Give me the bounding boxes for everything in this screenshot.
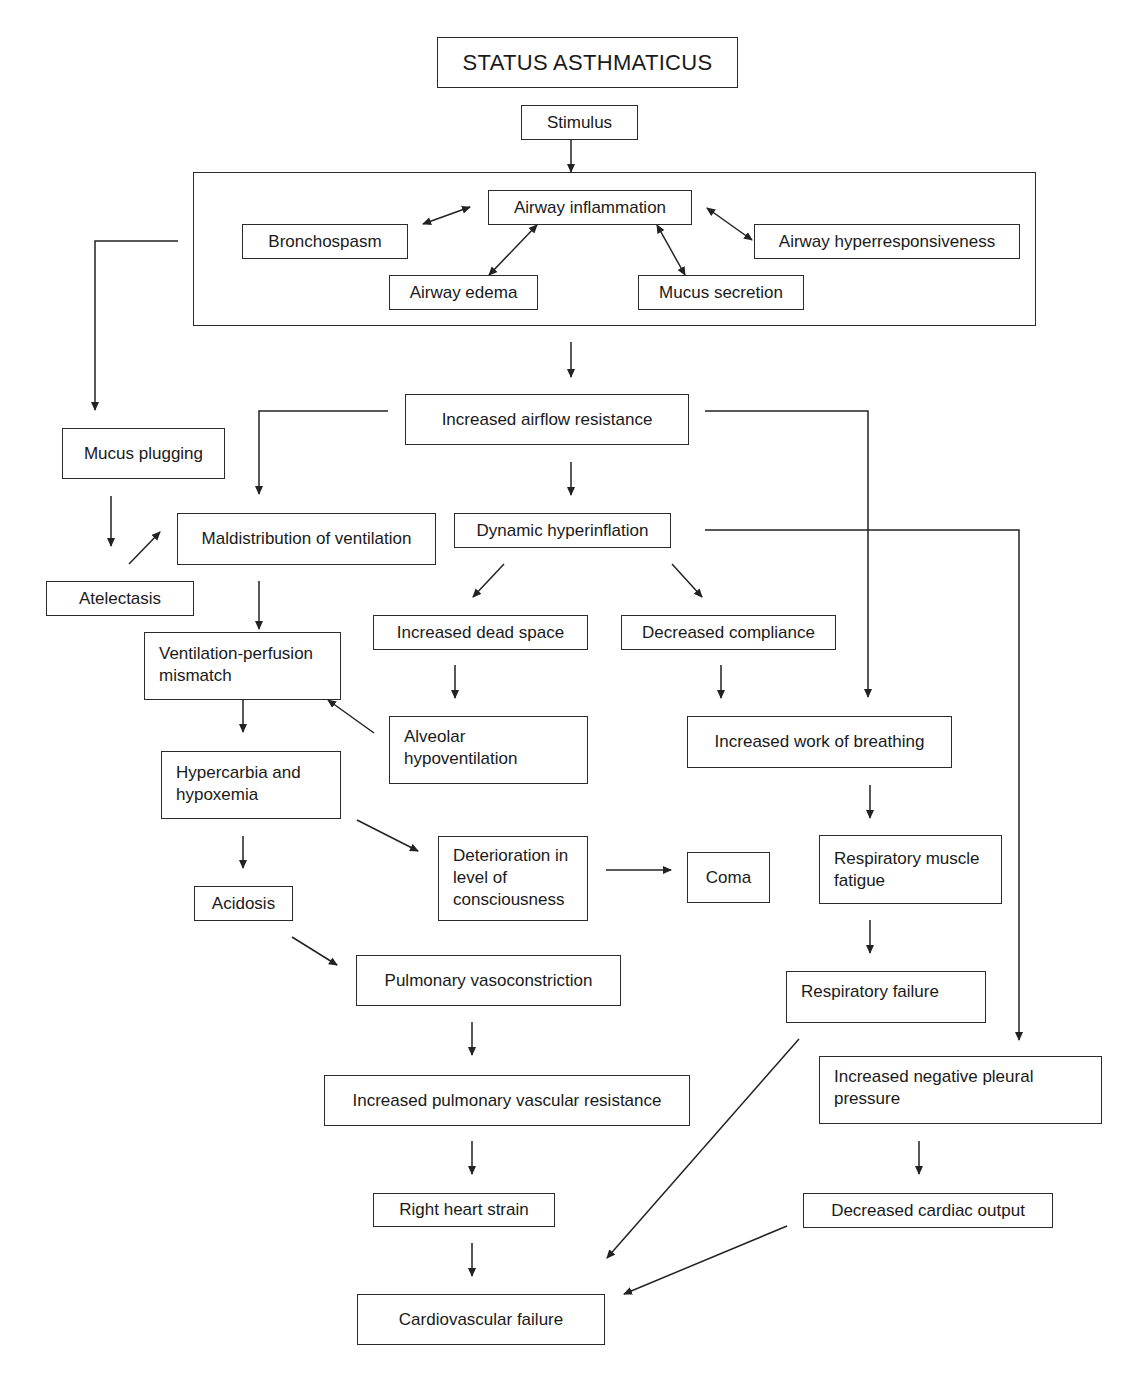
node-decreased-compliance: Decreased compliance <box>621 615 836 650</box>
node-pulmonary-vasoconstriction: Pulmonary vasoconstriction <box>356 955 621 1006</box>
node-mucus-secretion: Mucus secretion <box>638 275 804 310</box>
node-stimulus: Stimulus <box>521 105 638 140</box>
node-right-heart-strain: Right heart strain <box>373 1193 555 1227</box>
node-cardiovascular-failure: Cardiovascular failure <box>357 1294 605 1345</box>
flowchart-status-asthmaticus: STATUS ASTHMATICUS Stimulus Airway infla… <box>0 0 1131 1382</box>
node-decreased-cardiac-output: Decreased cardiac output <box>803 1193 1053 1228</box>
node-maldistribution-of-ventilation: Maldistribution of ventilation <box>177 513 436 565</box>
node-increased-negative-pleural-pressure: Increased negative pleural pressure <box>819 1056 1102 1124</box>
node-respiratory-failure: Respiratory failure <box>786 971 986 1023</box>
node-dynamic-hyperinflation: Dynamic hyperinflation <box>454 513 671 548</box>
node-ventilation-perfusion-mismatch: Ventilation-perfusion mismatch <box>144 632 341 700</box>
node-deterioration-in-consciousness: Deterioration in level of consciousness <box>438 836 588 921</box>
node-increased-airflow-resistance: Increased airflow resistance <box>405 394 689 445</box>
node-acidosis: Acidosis <box>194 886 293 921</box>
node-bronchospasm: Bronchospasm <box>242 224 408 259</box>
node-atelectasis: Atelectasis <box>46 581 194 616</box>
node-airway-inflammation: Airway inflammation <box>488 190 692 225</box>
node-airway-hyperresponsiveness: Airway hyperresponsiveness <box>754 224 1020 259</box>
node-coma: Coma <box>687 852 770 903</box>
node-increased-pulmonary-vascular-resistance: Increased pulmonary vascular resistance <box>324 1075 690 1126</box>
node-respiratory-muscle-fatigue: Respiratory muscle fatigue <box>819 835 1002 904</box>
node-alveolar-hypoventilation: Alveolar hypoventilation <box>389 716 588 784</box>
node-increased-work-of-breathing: Increased work of breathing <box>687 716 952 768</box>
node-increased-dead-space: Increased dead space <box>373 615 588 650</box>
diagram-title: STATUS ASTHMATICUS <box>437 37 738 88</box>
node-airway-edema: Airway edema <box>389 275 538 310</box>
node-hypercarbia-and-hypoxemia: Hypercarbia and hypoxemia <box>161 751 341 819</box>
node-mucus-plugging: Mucus plugging <box>62 428 225 479</box>
